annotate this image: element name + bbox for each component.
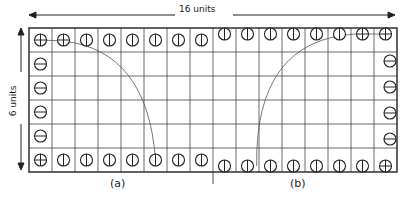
conductor-icon (242, 160, 254, 172)
subfigure-label-a: (a) (110, 177, 125, 190)
conductor-icon (58, 154, 70, 166)
subfigure-label-b: (b) (290, 177, 306, 190)
conductor-icon (357, 28, 369, 40)
conductor-icon (127, 154, 139, 166)
conductor-icon (384, 55, 396, 67)
conductor-icon (380, 160, 392, 172)
conductor-icon (311, 28, 323, 40)
conductor-icon (81, 154, 93, 166)
conductor-icon (35, 130, 47, 142)
conductor-icon (219, 28, 231, 40)
conductor-icon (104, 154, 116, 166)
conductor-icon (150, 34, 162, 46)
width-label: 16 units (176, 4, 218, 14)
conductor-icon (357, 160, 369, 172)
conductor-icon (35, 106, 47, 118)
conductor-icon (384, 107, 396, 119)
conductor-icon (219, 160, 231, 172)
conductor-icon (58, 34, 70, 46)
conductor-icon (288, 28, 300, 40)
conductor-icon (173, 154, 185, 166)
conductor-icon (81, 34, 93, 46)
conductor-icon (334, 28, 346, 40)
conductor-arrangement-diagram (0, 0, 411, 202)
conductor-icon (35, 154, 47, 166)
height-dimension-arrow (18, 28, 24, 170)
conductor-icon (384, 81, 396, 93)
conductor-icon (104, 34, 116, 46)
conductor-icon (380, 28, 392, 40)
conductor-icon (288, 160, 300, 172)
conductor-icon (334, 160, 346, 172)
conductor-icon (242, 28, 254, 40)
conductor-icon (311, 160, 323, 172)
conductor-icon (35, 34, 47, 46)
height-label: 6 units (8, 84, 18, 119)
conductor-icon (150, 154, 162, 166)
conductor-icon (196, 34, 208, 46)
conductor-icon (35, 58, 47, 70)
conductor-icon (173, 34, 185, 46)
conductor-icon (196, 154, 208, 166)
conductor-icon (384, 133, 396, 145)
conductor-icon (127, 34, 139, 46)
conductor-icon (35, 82, 47, 94)
conductor-icon (265, 160, 277, 172)
conductor-icon (265, 28, 277, 40)
